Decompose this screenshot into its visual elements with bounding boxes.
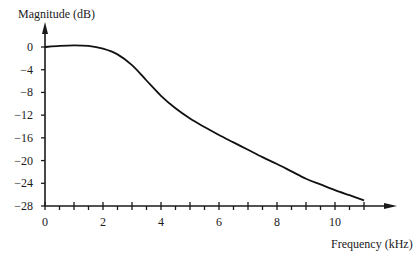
axes <box>42 22 397 209</box>
x-tick-label: 8 <box>274 215 280 229</box>
magnitude-curve <box>45 45 364 200</box>
y-tick-label: −16 <box>14 131 33 145</box>
y-axis-arrow <box>42 22 48 34</box>
x-axis-title: Frequency (kHz) <box>331 237 413 251</box>
y-tick-label: 0 <box>27 40 33 54</box>
x-tick-label: 10 <box>329 215 341 229</box>
magnitude-chart: Magnitude (dB) Frequency (kHz) 0−4−8−12−… <box>0 0 417 259</box>
x-tick-label: 4 <box>158 215 164 229</box>
y-tick-label: −8 <box>20 85 33 99</box>
y-tick-label: −20 <box>14 154 33 168</box>
series-group <box>45 45 364 200</box>
x-tick-label: 2 <box>100 215 106 229</box>
y-tick-label: −4 <box>20 63 33 77</box>
y-tick-label: −28 <box>14 199 33 213</box>
x-tick-label: 0 <box>42 215 48 229</box>
y-tick-label: −12 <box>14 108 33 122</box>
y-tick-label: −24 <box>14 176 33 190</box>
y-ticks: 0−4−8−12−16−20−24−28 <box>14 40 45 213</box>
x-tick-label: 6 <box>216 215 222 229</box>
x-axis-arrow <box>384 203 397 209</box>
y-axis-title: Magnitude (dB) <box>18 7 95 21</box>
